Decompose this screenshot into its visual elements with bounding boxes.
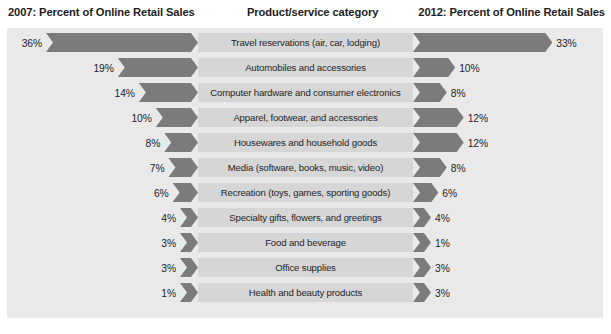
left-bar — [156, 108, 198, 127]
right-percent-label: 3% — [435, 262, 450, 273]
chart-header: 2007: Percent of Online Retail Sales Pro… — [0, 6, 611, 26]
right-bar — [413, 258, 431, 277]
right-bar — [413, 283, 431, 302]
left-bar — [180, 258, 198, 277]
right-percent-label: 8% — [451, 162, 466, 173]
chart-row: 14%Computer hardware and consumer electr… — [7, 80, 603, 105]
right-percent-label: 33% — [556, 37, 576, 48]
category-band: Food and beverage — [198, 233, 413, 252]
left-bar — [180, 283, 198, 302]
category-band: Media (software, books, music, video) — [198, 158, 413, 177]
left-percent-label: 8% — [146, 137, 161, 148]
left-bar — [118, 58, 198, 77]
category-label: Specialty gifts, flowers, and greetings — [229, 212, 382, 223]
right-percent-label: 12% — [468, 112, 488, 123]
right-bar — [413, 108, 464, 127]
chart-row: 36%Travel reservations (air, car, lodgin… — [7, 30, 603, 55]
left-percent-label: 3% — [161, 262, 176, 273]
left-bar — [168, 158, 198, 177]
left-bar — [164, 133, 198, 152]
category-band: Specialty gifts, flowers, and greetings — [198, 208, 413, 227]
category-band: Recreation (toys, games, sporting goods) — [198, 183, 413, 202]
left-bar — [180, 208, 198, 227]
left-percent-label: 7% — [150, 162, 165, 173]
right-percent-label: 4% — [435, 212, 450, 223]
chart-row: 8%Housewares and household goods12% — [7, 130, 603, 155]
category-band: Travel reservations (air, car, lodging) — [198, 33, 413, 52]
right-percent-label: 8% — [451, 87, 466, 98]
left-bar — [173, 183, 198, 202]
right-percent-label: 1% — [435, 237, 450, 248]
chart-row: 7%Media (software, books, music, video)8… — [7, 155, 603, 180]
left-percent-label: 36% — [22, 37, 42, 48]
category-label: Media (software, books, music, video) — [228, 162, 383, 173]
header-center-title: Product/service category — [247, 6, 378, 18]
left-bar — [180, 233, 198, 252]
header-left-title: 2007: Percent of Online Retail Sales — [8, 6, 195, 18]
right-percent-label: 6% — [442, 187, 457, 198]
category-label: Automobiles and accessories — [245, 62, 366, 73]
category-band: Housewares and household goods — [198, 133, 413, 152]
category-band: Apparel, footwear, and accessories — [198, 108, 413, 127]
chart-row: 1%Health and beauty products3% — [7, 280, 603, 305]
category-band: Office supplies — [198, 258, 413, 277]
right-bar — [413, 33, 552, 52]
left-percent-label: 1% — [161, 287, 176, 298]
left-percent-label: 10% — [131, 112, 151, 123]
chart-row: 3%Food and beverage1% — [7, 230, 603, 255]
chart-row: 3%Office supplies3% — [7, 255, 603, 280]
category-label: Housewares and household goods — [234, 137, 377, 148]
right-bar — [413, 208, 431, 227]
header-right-title: 2012: Percent of Online Retail Sales — [418, 6, 605, 18]
right-bar — [413, 183, 438, 202]
chart-row: 6%Recreation (toys, games, sporting good… — [7, 180, 603, 205]
right-percent-label: 12% — [468, 137, 488, 148]
left-percent-label: 4% — [161, 212, 176, 223]
left-bar — [139, 83, 198, 102]
category-label: Health and beauty products — [249, 287, 362, 298]
chart-row: 4%Specialty gifts, flowers, and greeting… — [7, 205, 603, 230]
right-bar — [413, 83, 447, 102]
category-band: Computer hardware and consumer electroni… — [198, 83, 413, 102]
category-label: Office supplies — [275, 262, 336, 273]
right-bar — [413, 233, 431, 252]
category-label: Food and beverage — [265, 237, 346, 248]
category-label: Recreation (toys, games, sporting goods) — [221, 187, 390, 198]
right-bar — [413, 58, 455, 77]
category-label: Travel reservations (air, car, lodging) — [231, 37, 380, 48]
category-band: Automobiles and accessories — [198, 58, 413, 77]
left-percent-label: 3% — [161, 237, 176, 248]
left-bar — [46, 33, 198, 52]
left-percent-label: 6% — [154, 187, 169, 198]
right-percent-label: 3% — [435, 287, 450, 298]
category-label: Apparel, footwear, and accessories — [233, 112, 377, 123]
category-band: Health and beauty products — [198, 283, 413, 302]
chart-rows: 36%Travel reservations (air, car, lodgin… — [7, 30, 603, 305]
right-bar — [413, 133, 464, 152]
left-percent-label: 14% — [115, 87, 135, 98]
category-label: Computer hardware and consumer electroni… — [210, 87, 400, 98]
right-percent-label: 10% — [459, 62, 479, 73]
chart-row: 19%Automobiles and accessories10% — [7, 55, 603, 80]
chart-panel: 36%Travel reservations (air, car, lodgin… — [7, 28, 603, 318]
right-bar — [413, 158, 447, 177]
left-percent-label: 19% — [93, 62, 113, 73]
chart-row: 10%Apparel, footwear, and accessories12% — [7, 105, 603, 130]
